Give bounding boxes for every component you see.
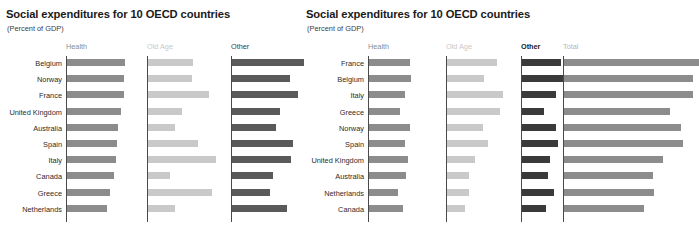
bar — [447, 124, 483, 131]
plot-area-left: BelgiumNorwayFranceUnited KingdomAustral… — [0, 42, 306, 230]
column-header-other: Other — [521, 42, 540, 51]
chart-subtitle: (Percent of GDP) — [7, 24, 64, 33]
bar — [232, 91, 298, 98]
column-header-other: Other — [231, 42, 249, 51]
bar — [522, 91, 556, 98]
row-label: Spain — [0, 141, 62, 149]
bar — [67, 124, 118, 131]
bar — [564, 75, 693, 82]
bar — [564, 108, 670, 115]
bar — [447, 59, 497, 66]
bar — [148, 140, 198, 147]
column-header-old-age: Old Age — [147, 42, 173, 51]
page-title: Social expenditures for 10 OECD countrie… — [6, 8, 230, 20]
bar — [522, 59, 561, 66]
bar — [447, 91, 503, 98]
row-label: Australia — [306, 173, 364, 181]
column-header-old-age: Old Age — [446, 42, 472, 51]
row-label: Greece — [0, 190, 62, 198]
bar — [67, 156, 116, 163]
bar — [522, 124, 556, 131]
bar — [148, 59, 193, 66]
bar — [522, 140, 558, 147]
bar — [148, 75, 192, 82]
bar — [67, 140, 117, 147]
chart-panel-right: Social expenditures for 10 OECD countrie… — [306, 0, 620, 230]
column-header-health: Health — [66, 42, 87, 51]
column-header-total: Total — [563, 42, 578, 51]
bar — [564, 91, 693, 98]
bar — [447, 205, 465, 212]
bar — [148, 156, 216, 163]
bar — [522, 205, 546, 212]
bar — [369, 75, 411, 82]
row-label: Canada — [306, 206, 364, 214]
row-label: Belgium — [0, 60, 62, 68]
bar — [447, 140, 488, 147]
row-label: France — [306, 60, 364, 68]
column-header-health: Health — [368, 42, 389, 51]
bar — [369, 140, 405, 147]
bar — [232, 124, 276, 131]
bar — [369, 91, 405, 98]
plot-area-right: FranceBelgiumItalyGreeceNorwaySpainUnite… — [306, 42, 620, 230]
row-label: Netherlands — [0, 206, 62, 214]
bar — [564, 172, 653, 179]
row-label: Netherlands — [306, 190, 364, 198]
row-label: United Kingdom — [0, 109, 62, 117]
bar — [447, 108, 500, 115]
row-label: Norway — [0, 76, 62, 84]
bar — [369, 205, 403, 212]
row-label: Spain — [306, 141, 364, 149]
row-label: France — [0, 92, 62, 100]
bar — [447, 172, 469, 179]
bar — [67, 205, 107, 212]
bar — [148, 91, 209, 98]
bar — [232, 172, 273, 179]
bar — [67, 108, 121, 115]
bar — [564, 205, 644, 212]
bar — [447, 189, 469, 196]
bar — [369, 59, 410, 66]
row-label: Australia — [0, 125, 62, 133]
chart-subtitle-right: (Percent of GDP) — [307, 24, 364, 33]
bar — [232, 156, 291, 163]
bar — [369, 124, 410, 131]
bar — [522, 172, 548, 179]
bar — [564, 59, 699, 66]
row-label: Italy — [0, 157, 62, 165]
bar — [148, 172, 170, 179]
bar — [67, 91, 124, 98]
bar — [564, 124, 681, 131]
row-label: Norway — [306, 125, 364, 133]
row-label: Canada — [0, 173, 62, 181]
bar — [564, 140, 683, 147]
bar — [522, 108, 544, 115]
bar — [564, 156, 663, 163]
row-label: Belgium — [306, 76, 364, 84]
bar — [232, 75, 290, 82]
bar — [148, 189, 212, 196]
bar — [564, 189, 654, 196]
bar — [522, 156, 550, 163]
row-label: United Kingdom — [306, 157, 364, 165]
bar — [67, 189, 110, 196]
bar — [67, 59, 125, 66]
bar — [232, 140, 293, 147]
bar — [67, 172, 114, 179]
bar — [232, 59, 304, 66]
bar — [447, 156, 475, 163]
bar — [369, 156, 408, 163]
bar — [232, 205, 287, 212]
row-label: Italy — [306, 92, 364, 100]
bar — [522, 75, 564, 82]
bar — [148, 108, 182, 115]
bar — [67, 75, 124, 82]
bar — [522, 189, 554, 196]
bar — [369, 189, 398, 196]
bar — [232, 108, 280, 115]
page-title-right: Social expenditures for 10 OECD countrie… — [306, 8, 530, 20]
bar — [369, 172, 406, 179]
bar — [148, 205, 175, 212]
chart-panel-left: Social expenditures for 10 OECD countrie… — [0, 0, 306, 230]
